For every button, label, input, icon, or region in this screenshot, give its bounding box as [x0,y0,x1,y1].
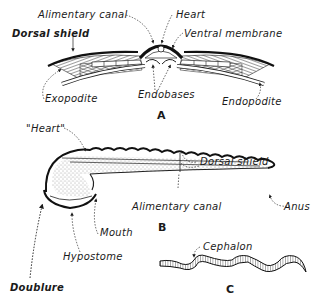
trilobite-anatomy-diagram [0,0,321,304]
label-dorsal-shield-b: Dorsal shield [200,157,269,167]
label-cephalon-c: Cephalon [203,242,253,252]
label-endobases-a: Endobases [138,90,195,100]
label-anus-b: Anus [284,202,310,212]
panel-c-leaders [194,247,200,256]
panel-a-drawing [48,46,274,84]
panel-label-a: A [157,110,166,121]
label-doublure-b: Doublure [10,283,64,293]
panel-label-b: B [158,222,166,233]
panel-c-drawing [160,255,306,272]
panel-label-c: C [226,284,234,295]
label-endopodite-a: Endopodite [222,97,282,107]
label-hypostome-b: Hypostome [63,252,123,262]
label-exopodite-a: Exopodite [45,94,98,104]
label-alimentary-canal-a: Alimentary canal [38,10,128,20]
label-alimentary-canal-b: Alimentary canal [132,202,222,212]
label-heart-a: Heart [176,10,205,20]
label-heart-b: "Heart" [26,124,65,134]
label-dorsal-shield-a: Dorsal shield [12,29,89,39]
label-mouth-b: Mouth [100,228,133,238]
label-ventral-membrane-a: Ventral membrane [184,29,282,39]
